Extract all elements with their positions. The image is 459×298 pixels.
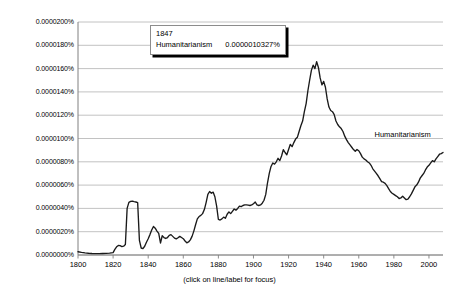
x-tick-label: 1900 xyxy=(245,260,262,269)
x-tick-label: 1800 xyxy=(70,260,87,269)
tooltip-row: Humanitarianism0.0000010327% xyxy=(156,40,280,50)
chart-caption: (click on line/label for focus) xyxy=(0,275,459,284)
ngram-chart: 0.0000000%0.0000020%0.0000040%0.0000060%… xyxy=(0,0,459,298)
tooltip-value: 0.0000010327% xyxy=(225,40,280,50)
data-point-tooltip: 1847 Humanitarianism0.0000010327% xyxy=(150,25,286,55)
x-tick-label: 1920 xyxy=(280,260,297,269)
x-tick-label: 2000 xyxy=(421,260,438,269)
x-tick-label: 1840 xyxy=(140,260,157,269)
x-tick-label: 1940 xyxy=(315,260,332,269)
series-label-humanitarianism[interactable]: Humanitarianism xyxy=(374,130,430,139)
tooltip-year: 1847 xyxy=(156,29,280,39)
x-tick-label: 1880 xyxy=(210,260,227,269)
x-tick-label: 1820 xyxy=(105,260,122,269)
x-tick-label: 1960 xyxy=(350,260,367,269)
tooltip-series-name: Humanitarianism xyxy=(156,40,212,50)
x-tick-label: 1860 xyxy=(175,260,192,269)
x-tick-label: 1980 xyxy=(386,260,403,269)
